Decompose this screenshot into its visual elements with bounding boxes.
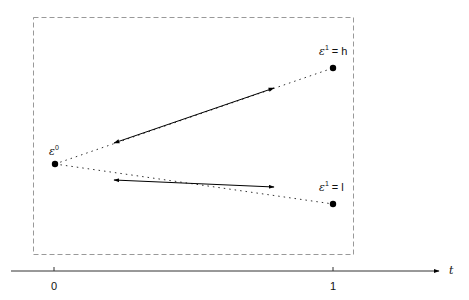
node-e1-h xyxy=(330,65,336,71)
axis-label-t: t xyxy=(449,264,453,277)
tick-label-1: 1 xyxy=(330,280,336,292)
node-e1-l xyxy=(330,201,336,207)
double-arrow-upper xyxy=(114,88,274,143)
node-e1-l-label: ε1 = l xyxy=(319,180,344,194)
node-e1-h-label: ε1 = h xyxy=(319,44,347,58)
tick-label-0: 0 xyxy=(51,280,57,292)
node-e0-label: ε0 xyxy=(49,144,59,158)
dashed-frame xyxy=(34,18,354,255)
node-e0 xyxy=(52,161,58,167)
diagram-canvas xyxy=(0,0,469,300)
double-arrow-lower xyxy=(114,180,274,187)
